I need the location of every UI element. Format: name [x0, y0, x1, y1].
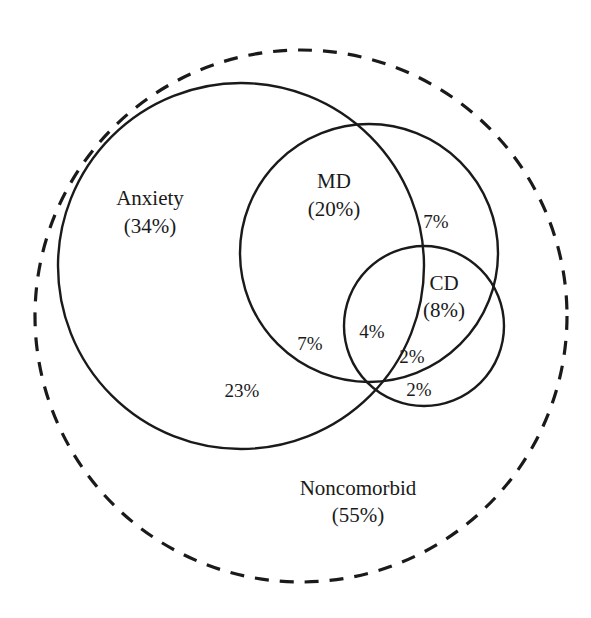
noncomorbid-circle	[35, 50, 567, 582]
region-anxiety-cd-value: 2%	[406, 379, 432, 400]
venn-diagram-canvas: Anxiety (34%) MD (20%) CD (8%) Noncomorb…	[0, 0, 591, 618]
region-md-only-value: 7%	[423, 211, 449, 232]
region-md-cd-value: 2%	[399, 346, 425, 367]
region-anxiety-md-cd-value: 4%	[359, 321, 385, 342]
noncomorbid-percent: (55%)	[332, 503, 384, 527]
venn-diagram-figure: Anxiety (34%) MD (20%) CD (8%) Noncomorb…	[0, 0, 591, 618]
md-percent: (20%)	[308, 197, 360, 221]
cd-label: CD	[429, 271, 458, 295]
anxiety-label: Anxiety	[116, 186, 184, 210]
md-label: MD	[317, 169, 351, 193]
anxiety-percent: (34%)	[124, 214, 176, 238]
region-anxiety-only-value: 23%	[225, 380, 260, 401]
noncomorbid-label: Noncomorbid	[300, 476, 417, 500]
cd-percent: (8%)	[423, 298, 465, 322]
region-anxiety-md-value: 7%	[297, 333, 323, 354]
